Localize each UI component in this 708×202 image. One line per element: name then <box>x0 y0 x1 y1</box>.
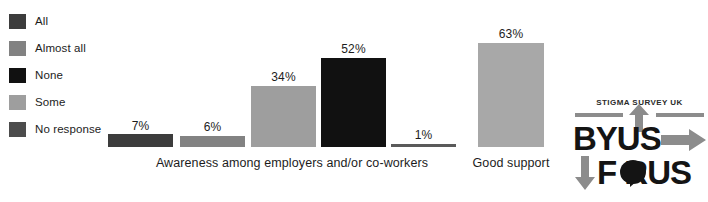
bar-value-some: 52% <box>321 42 386 56</box>
bar-value-none: 34% <box>251 70 316 84</box>
bar-value-all: 7% <box>108 119 173 133</box>
bar-value-no-response: 1% <box>391 128 456 142</box>
logo-text-byus: BYUS <box>573 122 661 156</box>
bar-almost-all <box>180 136 245 147</box>
bar-none <box>251 86 316 147</box>
logo-rule-right <box>656 113 704 117</box>
group-label-awareness: Awareness among employers and/or co-work… <box>142 156 442 171</box>
group-label-good-support: Good support <box>456 156 566 171</box>
logo-rule-left <box>575 113 623 117</box>
bar-some <box>321 58 386 147</box>
stigma-survey-bar-chart: All Almost all None Some No response 7% … <box>0 0 708 202</box>
bar-no-response <box>391 144 456 147</box>
bar-value-good-support: 63% <box>478 27 544 41</box>
speech-bubble-icon <box>620 160 646 187</box>
bar-all <box>108 134 173 147</box>
stigma-survey-uk-logo: STIGMA SURVEY UK BYUS F RUS <box>573 98 706 200</box>
arrow-right-icon <box>661 129 706 151</box>
bar-good-support <box>478 43 544 147</box>
bar-value-almost-all: 6% <box>180 120 245 134</box>
arrow-down-icon <box>574 156 596 190</box>
